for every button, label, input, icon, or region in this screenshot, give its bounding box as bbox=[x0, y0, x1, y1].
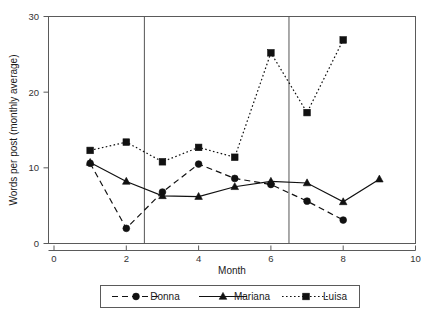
x-tick-label: 2 bbox=[124, 253, 129, 264]
data-point-donna bbox=[123, 225, 130, 232]
y-tick-label: 20 bbox=[28, 87, 39, 98]
y-tick-label: 10 bbox=[28, 162, 39, 173]
data-point-luisa bbox=[159, 158, 166, 165]
y-tick-label: 30 bbox=[28, 11, 39, 22]
series-donna bbox=[87, 160, 347, 232]
data-point-luisa bbox=[268, 50, 275, 57]
data-point-mariana bbox=[123, 177, 131, 184]
y-tick-label: 0 bbox=[34, 238, 39, 249]
x-tick-label: 6 bbox=[268, 253, 273, 264]
data-point-mariana bbox=[339, 198, 347, 205]
legend-marker-luisa bbox=[303, 293, 310, 300]
data-point-donna bbox=[340, 217, 347, 224]
data-point-luisa bbox=[231, 154, 238, 161]
x-tick-label: 8 bbox=[341, 253, 346, 264]
y-axis-title: Words per post (monthly average) bbox=[8, 55, 19, 206]
chart-container: 0246810 Month 0102030 Words per post (mo… bbox=[0, 0, 430, 321]
data-point-luisa bbox=[340, 37, 347, 44]
legend: DonnaMarianaLuisa bbox=[101, 286, 360, 308]
series-group bbox=[86, 37, 383, 232]
series-line-donna bbox=[90, 163, 343, 228]
x-tick-label: 0 bbox=[51, 253, 56, 264]
data-point-donna bbox=[195, 161, 202, 168]
x-axis-title: Month bbox=[218, 265, 246, 276]
y-tick-group: 0102030 bbox=[28, 11, 48, 249]
data-point-luisa bbox=[304, 109, 311, 116]
x-tick-label: 4 bbox=[196, 253, 201, 264]
x-tick-label: 10 bbox=[410, 253, 421, 264]
legend-marker-donna bbox=[133, 293, 140, 300]
x-tick-group: 0246810 bbox=[51, 246, 420, 265]
x-axis: 0246810 Month bbox=[49, 246, 421, 277]
legend-label-donna: Donna bbox=[150, 291, 180, 302]
legend-label-mariana: Mariana bbox=[234, 291, 271, 302]
data-point-donna bbox=[231, 175, 238, 182]
phase-divider-group bbox=[144, 17, 289, 244]
data-point-mariana bbox=[267, 177, 275, 184]
data-point-luisa bbox=[195, 144, 202, 151]
line-chart: 0246810 Month 0102030 Words per post (mo… bbox=[0, 0, 430, 321]
y-axis: 0102030 Words per post (monthly average) bbox=[8, 11, 49, 249]
series-luisa bbox=[87, 37, 347, 165]
legend-label-luisa: Luisa bbox=[323, 291, 347, 302]
data-point-luisa bbox=[87, 147, 94, 154]
data-point-mariana bbox=[376, 175, 384, 182]
plot-frame bbox=[49, 17, 416, 244]
data-point-donna bbox=[304, 198, 311, 205]
data-point-luisa bbox=[123, 139, 130, 146]
